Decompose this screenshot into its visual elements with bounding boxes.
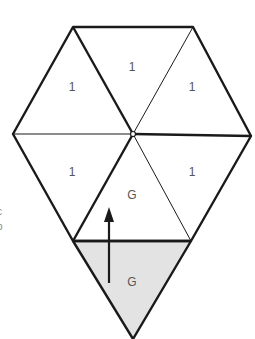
triangle-label-top-left: 1: [69, 80, 76, 94]
thick-edge-right-horizontal: [133, 134, 251, 136]
shaded-triangle: [73, 241, 191, 339]
thick-edge-center-to-bottom-left: [73, 134, 133, 241]
edge-fragment-2: b: [0, 221, 3, 232]
center-vertex: [131, 132, 136, 137]
triangle-label-top: 1: [129, 60, 136, 74]
thin-edge-center-diagonal: [133, 134, 191, 241]
triangle-diagram: 1 1 1 1 G 1 G c b: [0, 0, 255, 339]
triangle-label-bottom-right: 1: [189, 165, 196, 179]
thin-edge-top-right-diagonal: [133, 27, 193, 134]
thick-edge-top-left-diagonal: [73, 27, 133, 134]
edge-fragment-1: c: [0, 206, 2, 217]
triangle-label-extra-bottom: G: [127, 275, 136, 289]
triangle-label-bottom-center: G: [127, 188, 136, 202]
triangle-label-bottom-left: 1: [69, 165, 76, 179]
triangle-label-top-right: 1: [189, 80, 196, 94]
